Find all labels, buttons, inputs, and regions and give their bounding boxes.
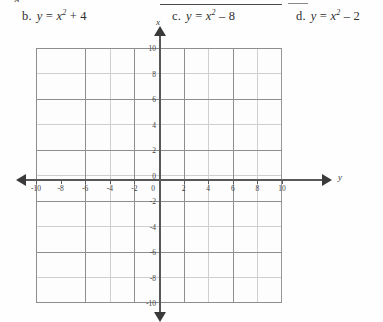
horizontal-axis-label: y	[338, 172, 342, 182]
vertical-axis-label: x	[156, 17, 160, 27]
vertical-tick-neg2: -2	[138, 197, 156, 206]
vertical-tick-4: 4	[138, 121, 156, 130]
arrow-right-icon	[322, 174, 332, 186]
choice-b-letter: b.	[22, 9, 32, 23]
vertical-tick-6: 6	[138, 95, 156, 104]
tick-mark	[61, 179, 62, 184]
choice-b-equation: y = x2 + 4	[37, 9, 87, 23]
answer-choice-d[interactable]: d.y = x2 – 2	[296, 9, 360, 24]
tick-mark	[282, 179, 283, 184]
choice-d-equation: y = x2 – 2	[311, 9, 360, 23]
horizontal-rule-fragment-above-choice-d	[288, 3, 308, 4]
horizontal-tick-neg10: -10	[26, 184, 46, 193]
tick-mark	[85, 179, 86, 184]
horizontal-axis-line	[24, 179, 330, 181]
choice-c-lhs: y	[186, 9, 192, 23]
choice-b-exponent: 2	[62, 8, 66, 17]
horizontal-tick-4: 4	[198, 184, 218, 193]
horizontal-tick-6: 6	[223, 184, 243, 193]
tick-mark	[257, 179, 258, 184]
tick-mark	[36, 179, 37, 184]
choice-c-equals: =	[195, 9, 202, 23]
vertical-tick-neg4: -4	[138, 223, 156, 232]
horizontal-tick-neg2: -2	[124, 184, 144, 193]
tick-mark	[134, 179, 135, 184]
horizontal-tick-neg4: -4	[100, 184, 120, 193]
horizontal-tick-0: 0	[143, 184, 163, 193]
horizontal-tick-neg6: -6	[75, 184, 95, 193]
vertical-tick-neg6: -6	[138, 248, 156, 257]
coordinate-grid-graph: x y 1086420-2-4-6-8-10 -10-8-6-4-2024681…	[0, 26, 383, 322]
answer-choice-c[interactable]: c.y = x2 – 8	[172, 9, 235, 24]
vertical-tick-neg8: -8	[138, 274, 156, 283]
vertical-tick-neg10: -10	[138, 299, 156, 308]
tick-mark	[208, 179, 209, 184]
choice-d-lhs: y	[311, 9, 317, 23]
choice-d-operator: –	[344, 9, 350, 23]
arrow-left-icon	[16, 174, 26, 186]
choice-b-equals: =	[46, 9, 53, 23]
choice-c-constant: 8	[229, 9, 235, 23]
clipped-prior-line-fragment: a.	[14, 0, 44, 2]
tick-mark	[110, 179, 111, 184]
choice-b-constant: 4	[80, 9, 86, 23]
vertical-tick-0: 0	[138, 172, 156, 181]
answer-choice-b[interactable]: b.y = x2 + 4	[22, 9, 87, 24]
vertical-axis-line	[159, 33, 161, 319]
vertical-tick-10: 10	[138, 44, 156, 53]
arrow-up-icon	[154, 26, 166, 36]
choice-d-exponent: 2	[336, 8, 340, 17]
choice-c-equation: y = x2 – 8	[186, 9, 235, 23]
choice-d-equals: =	[320, 9, 327, 23]
vertical-tick-8: 8	[138, 70, 156, 79]
horizontal-tick-8: 8	[247, 184, 267, 193]
choice-c-letter: c.	[172, 9, 181, 23]
choice-d-letter: d.	[296, 9, 306, 23]
choice-b-lhs: y	[37, 9, 43, 23]
horizontal-rule-above-choice-c	[160, 4, 282, 5]
choice-d-constant: 2	[354, 9, 360, 23]
choice-b-operator: +	[70, 9, 77, 23]
horizontal-tick-10: 10	[272, 184, 292, 193]
arrow-down-icon	[154, 312, 166, 322]
choice-c-operator: –	[219, 9, 225, 23]
horizontal-tick-2: 2	[174, 184, 194, 193]
vertical-tick-2: 2	[138, 146, 156, 155]
tick-mark	[233, 179, 234, 184]
choice-c-exponent: 2	[211, 8, 215, 17]
horizontal-tick-neg8: -8	[51, 184, 71, 193]
tick-mark	[184, 179, 185, 184]
